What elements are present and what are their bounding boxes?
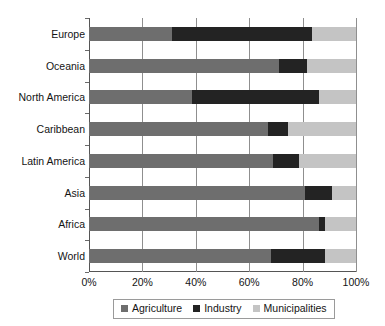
bar-segment-industry	[319, 217, 326, 231]
y-axis-label-europe: Europe	[1, 28, 85, 40]
bar-segment-agriculture	[89, 27, 172, 41]
bar-segment-agriculture	[89, 90, 192, 104]
gridline-100	[356, 18, 357, 272]
y-tick-mark	[85, 82, 89, 83]
bar-segment-agriculture	[89, 59, 279, 73]
bar-segment-agriculture	[89, 217, 319, 231]
gridline-60	[249, 18, 250, 272]
bar-segment-agriculture	[89, 122, 268, 136]
legend-swatch-icon	[253, 305, 260, 312]
y-tick-mark	[85, 50, 89, 51]
x-tick-label-60: 60%	[239, 276, 260, 289]
y-tick-mark	[85, 209, 89, 210]
x-axis-line	[89, 271, 356, 272]
bar-row	[89, 154, 356, 168]
y-axis-label-caribbean: Caribbean	[1, 123, 85, 135]
bar-row	[89, 59, 356, 73]
gridline-40	[196, 18, 197, 272]
legend-label: Agriculture	[132, 302, 182, 315]
y-tick-mark	[85, 18, 89, 19]
y-axis-label-latin-america: Latin America	[1, 155, 85, 167]
x-tick-label-40: 40%	[185, 276, 206, 289]
bar-row	[89, 186, 356, 200]
bar-segment-industry	[271, 249, 326, 263]
bar-row	[89, 217, 356, 231]
bar-row	[89, 122, 356, 136]
bar-segment-municipalities	[312, 27, 356, 41]
x-tick-label-0: 0%	[81, 276, 96, 289]
legend-label: Municipalities	[264, 302, 327, 315]
bar-segment-municipalities	[307, 59, 356, 73]
legend-swatch-icon	[121, 305, 128, 312]
legend-item-industry[interactable]: Industry	[193, 302, 241, 315]
y-axis-label-north-america: North America	[1, 91, 85, 103]
y-tick-mark	[85, 113, 89, 114]
bar-segment-municipalities	[332, 186, 356, 200]
x-tick-label-80: 80%	[292, 276, 313, 289]
y-tick-mark	[85, 145, 89, 146]
legend-label: Industry	[204, 302, 241, 315]
y-axis-line	[89, 18, 90, 272]
legend-item-agriculture[interactable]: Agriculture	[121, 302, 182, 315]
bar-segment-industry	[273, 154, 298, 168]
plot-area	[89, 18, 356, 272]
bar-segment-industry	[172, 27, 312, 41]
x-tick-label-20: 20%	[132, 276, 153, 289]
y-axis-category-labels: EuropeOceaniaNorth AmericaCaribbeanLatin…	[0, 18, 85, 272]
y-tick-mark	[85, 240, 89, 241]
legend-swatch-icon	[193, 305, 200, 312]
gridline-20	[142, 18, 143, 272]
stacked-bar-chart: EuropeOceaniaNorth AmericaCaribbeanLatin…	[0, 0, 385, 326]
legend-item-municipalities[interactable]: Municipalities	[253, 302, 327, 315]
bar-segment-municipalities	[319, 90, 356, 104]
y-axis-label-asia: Asia	[1, 187, 85, 199]
y-axis-label-world: World	[1, 250, 85, 262]
y-tick-mark	[85, 272, 89, 273]
gridline-80	[303, 18, 304, 272]
bar-segment-municipalities	[325, 249, 356, 263]
bar-segment-industry	[192, 90, 319, 104]
bar-segment-agriculture	[89, 186, 305, 200]
bar-segment-agriculture	[89, 249, 271, 263]
bar-segment-industry	[279, 59, 307, 73]
y-axis-label-oceania: Oceania	[1, 60, 85, 72]
y-axis-label-africa: Africa	[1, 218, 85, 230]
bar-segment-municipalities	[325, 217, 356, 231]
bar-row	[89, 27, 356, 41]
x-axis-tick-labels: 0%20%40%60%80%100%	[89, 276, 356, 292]
bar-row	[89, 249, 356, 263]
chart-legend: AgricultureIndustryMunicipalities	[113, 299, 335, 319]
y-tick-mark	[85, 177, 89, 178]
bar-segment-industry	[305, 186, 332, 200]
x-tick-label-100: 100%	[343, 276, 370, 289]
bar-segment-municipalities	[288, 122, 356, 136]
bar-row	[89, 90, 356, 104]
bar-segment-agriculture	[89, 154, 273, 168]
bar-segment-industry	[268, 122, 288, 136]
bar-segment-municipalities	[299, 154, 356, 168]
